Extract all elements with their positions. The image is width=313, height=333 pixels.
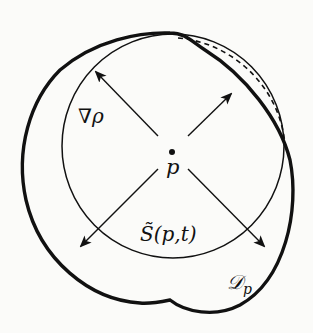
arrow-ne xyxy=(188,94,231,136)
gradient-label: ∇ρ xyxy=(78,104,104,128)
diagram-canvas: ∇ρ p S̃(p,t) 𝒟p xyxy=(0,0,313,333)
dashed-arc xyxy=(178,38,285,145)
domain-label-main: 𝒟 xyxy=(227,270,243,294)
domain-label: 𝒟p xyxy=(227,270,252,297)
surface-label: S̃(p,t) xyxy=(140,222,197,246)
arrow-nw xyxy=(96,72,158,136)
arrow-se xyxy=(188,169,264,246)
diagram-svg xyxy=(0,0,313,333)
center-point-label: p xyxy=(166,155,179,179)
domain-label-sub: p xyxy=(243,281,252,297)
